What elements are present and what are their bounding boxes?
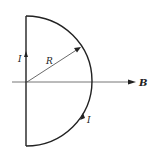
current-label-arc: I [86, 115, 91, 125]
semicircular-wire [26, 16, 92, 146]
semicircular-loop-diagram: B I I R [0, 0, 149, 162]
current-arrow-up-icon [24, 51, 28, 57]
field-arrow-head-icon [128, 80, 136, 85]
radius-label: R [45, 56, 53, 66]
radius-arrow-head-icon [74, 47, 81, 53]
current-label-left: I [17, 54, 22, 64]
field-label: B [138, 77, 147, 88]
